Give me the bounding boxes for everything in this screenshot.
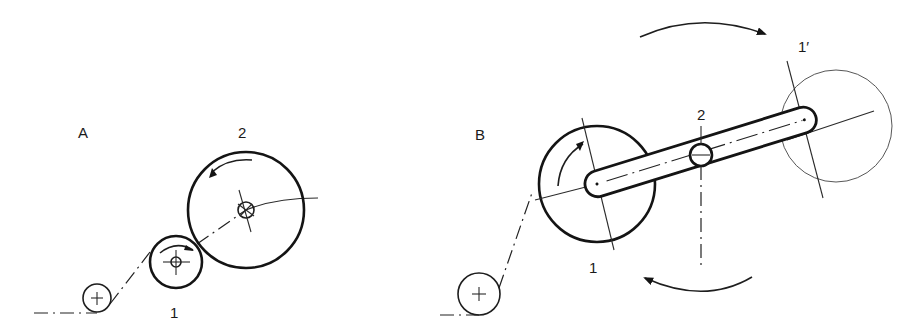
- disc-1-label-b: 1: [589, 259, 597, 276]
- roller-1-label-a: 1: [170, 304, 178, 321]
- panel-a-label: A: [78, 124, 88, 141]
- rotation-arrow-bottom: [645, 277, 752, 291]
- panel-b-label: B: [475, 126, 485, 143]
- pivot-2-b: [690, 126, 712, 270]
- disc-1-prime-label-b: 1′: [798, 38, 809, 55]
- guide-roller-b: [458, 273, 500, 315]
- guide-roller-a: [83, 284, 111, 312]
- web-path-outgoing: [246, 198, 318, 210]
- rotation-arrow-roller-2: [212, 160, 252, 172]
- roller-1-a: [150, 236, 202, 288]
- diagram-canvas: A 1 2: [0, 0, 901, 336]
- web-path-to-roller-1: [110, 252, 150, 304]
- roller-2-a: [188, 152, 304, 268]
- web-path-between-rollers: [197, 210, 246, 244]
- panel-a: A 1 2: [34, 124, 318, 321]
- roller-2-label-a: 2: [238, 124, 246, 141]
- rotation-arrow-top: [640, 23, 765, 37]
- web-path-to-disc-1: [499, 190, 533, 288]
- rotation-arrow-disc-1: [558, 144, 583, 186]
- pivot-2-label-b: 2: [697, 106, 705, 123]
- panel-b: B 1 1′: [440, 23, 892, 315]
